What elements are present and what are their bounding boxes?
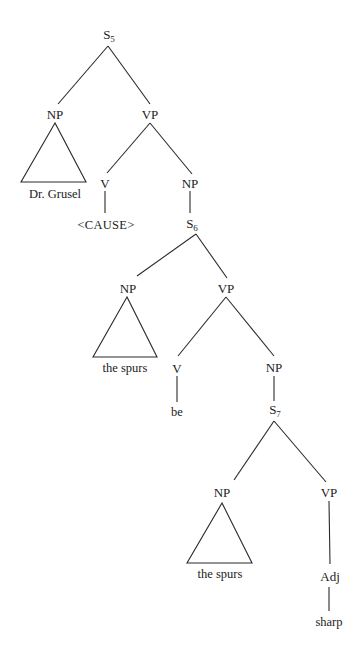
leaf-sharp: sharp <box>315 616 342 629</box>
leaf-the-spurs-2: the spurs <box>198 568 243 581</box>
node-np-2: NP <box>182 177 199 190</box>
branch-s5-np <box>58 46 108 104</box>
branch-s6-np <box>137 234 196 276</box>
branch-s7-np <box>234 421 274 480</box>
tree-branches <box>0 0 359 667</box>
node-s7: S7 <box>269 403 281 419</box>
node-np-3: NP <box>120 282 137 295</box>
np-triangle-dr-grusel <box>21 123 86 182</box>
branch-vp-v <box>107 123 150 173</box>
branch-vp-v-2 <box>178 297 226 356</box>
node-adj: Adj <box>320 570 340 583</box>
branch-s5-vp <box>108 46 150 104</box>
branch-s7-vp <box>274 421 326 482</box>
node-np-5: NP <box>214 486 231 499</box>
np-triangle-the-spurs-2 <box>187 503 252 563</box>
branch-vp-np-2 <box>226 297 274 356</box>
node-vp-3: VP <box>321 486 338 499</box>
branch-vp-np <box>150 123 192 174</box>
branch-vp-adj <box>329 501 330 564</box>
syntax-tree-diagram: S5 NP Dr. Grusel VP V <CAUSE> NP S6 NP t… <box>0 0 359 667</box>
node-vp-2: VP <box>218 282 235 295</box>
node-v-2: V <box>172 362 181 375</box>
node-vp-1: VP <box>142 108 159 121</box>
branch-s6-vp <box>196 234 227 278</box>
node-s5: S5 <box>103 28 115 44</box>
node-v-1: V <box>100 177 109 190</box>
leaf-be: be <box>171 406 183 419</box>
node-np-4: NP <box>266 361 283 374</box>
node-np-subject: NP <box>47 108 64 121</box>
leaf-the-spurs-1: the spurs <box>103 362 148 375</box>
node-s6: S6 <box>186 217 198 233</box>
np-triangle-the-spurs-1 <box>93 297 157 357</box>
leaf-dr-grusel: Dr. Grusel <box>29 188 81 201</box>
leaf-cause: <CAUSE> <box>77 219 134 232</box>
